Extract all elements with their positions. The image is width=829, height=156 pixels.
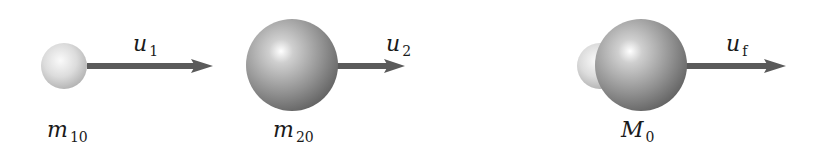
mass1-group <box>41 43 213 89</box>
small-sphere-m10 <box>41 43 87 89</box>
mass-label-m20: m20 <box>273 119 314 144</box>
velocity-arrow-shaft-2 <box>336 63 388 69</box>
combined-group <box>577 19 786 111</box>
collision-diagram <box>0 0 829 156</box>
mass-label-M0: M0 <box>621 119 654 144</box>
mass2-group <box>246 19 405 111</box>
velocity-label-uf: uf <box>726 33 747 58</box>
velocity-label-u1: u1 <box>133 33 158 58</box>
large-sphere-m20 <box>246 19 338 111</box>
velocity-arrow-shaft-1 <box>87 63 195 69</box>
mass-label-m10: m10 <box>47 119 88 144</box>
velocity-label-u2: u2 <box>386 33 411 58</box>
combined-large-sphere <box>595 19 687 111</box>
velocity-arrow-shaft-f <box>684 63 769 69</box>
